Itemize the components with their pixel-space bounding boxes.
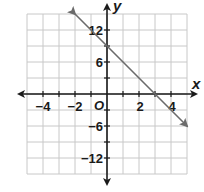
- x-tick-label: −2: [68, 99, 83, 114]
- y-axis-label: y: [112, 0, 122, 14]
- origin-label: O: [94, 98, 104, 113]
- y-tick-label: −6: [88, 119, 103, 134]
- x-axis-label: x: [191, 75, 201, 92]
- coordinate-plane: −4 −2 2 4 12 6 −6 −12 O y x: [0, 0, 204, 192]
- y-tick-label: −12: [81, 151, 103, 166]
- y-tick-label: 6: [96, 55, 103, 70]
- x-tick-label: −4: [36, 99, 52, 114]
- plotted-line: [75, 14, 187, 126]
- x-tick-label: 2: [136, 99, 143, 114]
